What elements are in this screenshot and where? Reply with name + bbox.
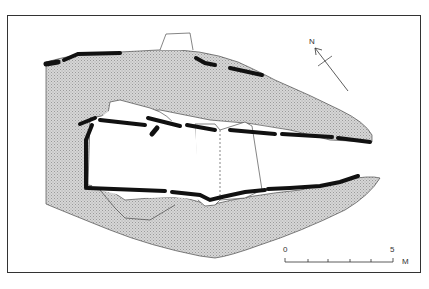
scale-bar: 0 5 M [283, 245, 409, 266]
chamber-east [195, 122, 262, 206]
north-label: N [309, 37, 315, 46]
scale-start-label: 0 [283, 245, 288, 254]
capstone-north [160, 33, 193, 50]
scale-end-label: 5 [390, 245, 395, 254]
north-arrow-icon: N [309, 37, 348, 91]
site-plan: N 0 5 M [0, 0, 429, 289]
scale-unit-label: M [402, 257, 409, 266]
